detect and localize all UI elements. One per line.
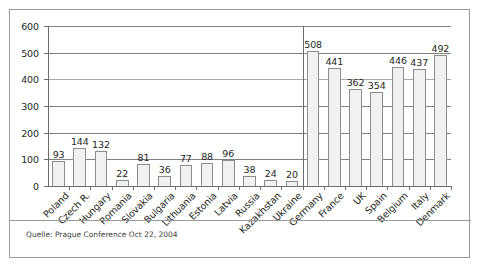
x-tick-mark xyxy=(69,186,70,190)
bar xyxy=(392,67,405,186)
bar xyxy=(349,89,362,186)
x-tick-mark xyxy=(196,186,197,190)
bar-value-label: 437 xyxy=(410,57,428,68)
bar xyxy=(52,161,65,186)
y-tick-label-100: 100 xyxy=(21,154,39,165)
gridline-400 xyxy=(48,79,451,80)
bar-value-label: 38 xyxy=(244,164,256,175)
y-tick-label-500: 500 xyxy=(21,47,39,58)
bar xyxy=(243,176,256,186)
bar xyxy=(286,181,299,186)
x-tick-mark xyxy=(154,186,155,190)
gridline-500 xyxy=(48,53,451,54)
x-tick-mark xyxy=(387,186,388,190)
bar-value-label: 22 xyxy=(116,168,128,179)
bar-value-label: 24 xyxy=(265,168,277,179)
x-tick-mark xyxy=(239,186,240,190)
x-tick-mark xyxy=(281,186,282,190)
gridline-100 xyxy=(48,159,451,160)
x-axis-line xyxy=(48,186,451,187)
y-tick-label-600: 600 xyxy=(21,21,39,32)
y-tick-label-300: 300 xyxy=(21,101,39,112)
bar xyxy=(370,92,383,186)
bar-value-label: 144 xyxy=(71,136,89,147)
bar xyxy=(137,164,150,186)
plot-area: 0100200300400500600 93144132228136778896… xyxy=(48,26,451,186)
gridline-300 xyxy=(48,106,451,107)
bar-value-label: 36 xyxy=(159,164,171,175)
footer-divider xyxy=(10,220,471,221)
bar-value-label: 508 xyxy=(304,39,322,50)
bar xyxy=(222,160,235,186)
x-tick-mark xyxy=(218,186,219,190)
source-note: Quelle: Prague Conference Oct 22, 2004 xyxy=(26,230,178,239)
bar-value-label: 354 xyxy=(368,80,386,91)
bar xyxy=(158,176,171,186)
x-tick-mark xyxy=(90,186,91,190)
y-tick-label-0: 0 xyxy=(33,181,39,192)
bar xyxy=(434,55,447,186)
bar xyxy=(116,180,129,186)
bar-value-label: 77 xyxy=(180,153,192,164)
bar-value-label: 20 xyxy=(286,169,298,180)
bar xyxy=(95,151,108,186)
bar-value-label: 81 xyxy=(137,152,149,163)
x-tick-mark xyxy=(324,186,325,190)
bar-value-label: 446 xyxy=(389,55,407,66)
bar-value-label: 96 xyxy=(222,148,234,159)
x-tick-mark xyxy=(366,186,367,190)
bar-value-label: 132 xyxy=(92,139,110,150)
group-separator-line xyxy=(303,26,304,187)
x-tick-mark xyxy=(112,186,113,190)
x-tick-mark xyxy=(430,186,431,190)
x-tick-mark xyxy=(260,186,261,190)
y-tick-label-200: 200 xyxy=(21,127,39,138)
bar xyxy=(201,163,214,186)
bar-value-label: 492 xyxy=(431,43,449,54)
bar xyxy=(73,148,86,186)
bar xyxy=(413,69,426,186)
bar-value-label: 93 xyxy=(53,149,65,160)
gridline-200 xyxy=(48,133,451,134)
bar xyxy=(264,180,277,186)
x-tick-mark xyxy=(133,186,134,190)
bar-value-label: 362 xyxy=(347,77,365,88)
x-tick-mark xyxy=(451,186,452,190)
bar-value-label: 441 xyxy=(325,56,343,67)
y-tick-label-400: 400 xyxy=(21,74,39,85)
bar-value-label: 88 xyxy=(201,151,213,162)
x-tick-mark xyxy=(409,186,410,190)
y-axis-line xyxy=(48,26,49,187)
chart-figure: 0100200300400500600 93144132228136778896… xyxy=(9,9,470,258)
gridline-600 xyxy=(48,26,451,27)
bar xyxy=(180,165,193,186)
bar xyxy=(307,51,320,186)
x-tick-mark xyxy=(345,186,346,190)
x-tick-mark xyxy=(175,186,176,190)
bar xyxy=(328,68,341,186)
